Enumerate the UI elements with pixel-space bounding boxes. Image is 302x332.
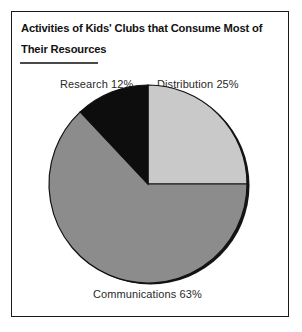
pie-slice-distribution bbox=[148, 85, 247, 184]
pie-slices bbox=[49, 85, 247, 283]
page-title: Activities of Kids' Clubs that Consume M… bbox=[21, 18, 271, 60]
title-underline-rule bbox=[20, 62, 98, 64]
pie-chart-figure: Activities of Kids' Clubs that Consume M… bbox=[0, 0, 302, 332]
title-line-2: Their Resources bbox=[21, 39, 271, 60]
title-line-1: Activities of Kids' Clubs that Consume M… bbox=[21, 18, 271, 39]
pie-graphic bbox=[45, 81, 253, 289]
slice-label-communications: Communications 63% bbox=[93, 288, 202, 300]
pie-svg bbox=[45, 81, 253, 289]
